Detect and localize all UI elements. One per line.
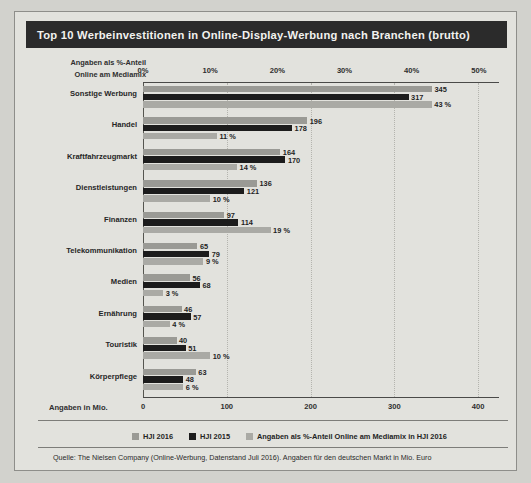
category-label: Touristik xyxy=(105,340,137,349)
bar-value-label: 114 xyxy=(241,218,253,227)
chart-group: Ernährung46574 % xyxy=(143,304,499,335)
bar-spct: 9 % xyxy=(143,258,203,264)
bar-value-label: 10 % xyxy=(213,194,230,203)
bar-value-label: 317 xyxy=(411,92,423,101)
bar-value-label: 3 % xyxy=(166,288,179,297)
bar-row: 178 xyxy=(143,125,499,131)
bar-value-label: 97 xyxy=(227,210,235,219)
legend-label: Angaben als %-Anteil Online am Mediamix … xyxy=(257,432,447,441)
bar-row: 164 xyxy=(143,149,499,155)
bar-value-label: 56 xyxy=(192,273,200,282)
category-label: Körperpflege xyxy=(90,372,137,381)
bottom-value-axis: 0100200300400 xyxy=(143,400,499,416)
bar-value-label: 196 xyxy=(310,116,322,125)
bar-row: 3 % xyxy=(143,290,499,296)
bar-row: 14 % xyxy=(143,164,499,170)
bar-row: 4 % xyxy=(143,321,499,327)
bar-value-label: 14 % xyxy=(240,163,257,172)
legend-item[interactable]: HJI 2016 xyxy=(132,432,173,441)
bar-value-label: 11 % xyxy=(219,131,235,140)
bar-value-label: 345 xyxy=(434,85,446,94)
bottom-axis-tick-label: 300 xyxy=(388,402,401,411)
bar-row: 10 % xyxy=(143,352,499,358)
legend-swatch-icon xyxy=(189,433,196,440)
bar-s2015: 170 xyxy=(143,156,285,162)
category-label: Kraftfahrzeugmarkt xyxy=(67,152,137,161)
bar-value-label: 10 % xyxy=(213,351,230,360)
bar-s2016: 164 xyxy=(143,149,280,155)
bar-s2016: 136 xyxy=(143,180,257,186)
bar-value-label: 4 % xyxy=(172,320,185,329)
bar-row: 65 xyxy=(143,243,499,249)
bar-s2016: 40 xyxy=(143,337,177,343)
bar-value-label: 51 xyxy=(188,343,196,352)
bar-row: 196 xyxy=(143,117,499,123)
screenshot-page: Top 10 Werbeinvestitionen in Online-Disp… xyxy=(0,0,531,483)
top-axis-tick-label: 50% xyxy=(471,66,486,75)
bar-s2015: 178 xyxy=(143,125,292,131)
bar-value-label: 6 % xyxy=(186,382,199,391)
chart-group: Medien56683 % xyxy=(143,272,499,303)
bar-value-label: 121 xyxy=(247,186,259,195)
bar-row: 11 % xyxy=(143,133,499,139)
legend-swatch-icon xyxy=(132,433,139,440)
chart-plot-wrapper: 0%10%20%30%40%50% Sonstige Werbung345317… xyxy=(26,56,507,406)
bar-s2016: 46 xyxy=(143,306,182,312)
top-axis-tick-label: 10% xyxy=(203,66,218,75)
chart-card: Top 10 Werbeinvestitionen in Online-Disp… xyxy=(14,11,517,471)
chart-title-bar: Top 10 Werbeinvestitionen in Online-Disp… xyxy=(26,21,507,48)
bar-s2016: 196 xyxy=(143,117,307,123)
bottom-axis-tick-label: 400 xyxy=(472,402,485,411)
bar-value-label: 63 xyxy=(198,367,206,376)
bar-row: 57 xyxy=(143,313,499,319)
bar-row: 114 xyxy=(143,219,499,225)
chart-group: Körperpflege63486 % xyxy=(143,367,499,398)
chart-legend: HJI 2016HJI 2015Angaben als %-Anteil Onl… xyxy=(132,429,463,443)
top-axis-tick-label: 20% xyxy=(270,66,285,75)
legend-label: HJI 2015 xyxy=(200,432,230,441)
bar-value-label: 65 xyxy=(200,242,208,251)
plot-bottom-rule xyxy=(143,397,499,398)
legend-item[interactable]: HJI 2015 xyxy=(189,432,230,441)
bar-s2016: 65 xyxy=(143,243,197,249)
top-axis-tick-label: 0% xyxy=(138,66,149,75)
bar-s2015: 317 xyxy=(143,94,409,100)
bar-spct: 10 % xyxy=(143,195,210,201)
category-label: Ernährung xyxy=(99,309,137,318)
bar-value-label: 40 xyxy=(179,336,187,345)
chart-group: Finanzen9711419 % xyxy=(143,210,499,241)
bar-s2016: 97 xyxy=(143,212,224,218)
bar-s2015: 48 xyxy=(143,376,183,382)
bar-row: 56 xyxy=(143,274,499,280)
legend-item[interactable]: Angaben als %-Anteil Online am Mediamix … xyxy=(246,432,447,441)
bar-value-label: 68 xyxy=(202,281,210,290)
bar-value-label: 9 % xyxy=(206,257,219,266)
bar-row: 6 % xyxy=(143,384,499,390)
bar-s2015: 114 xyxy=(143,219,238,225)
bar-spct: 14 % xyxy=(143,164,237,170)
bar-spct: 4 % xyxy=(143,321,170,327)
bar-spct: 11 % xyxy=(143,133,217,139)
bar-row: 170 xyxy=(143,156,499,162)
bar-row: 345 xyxy=(143,86,499,92)
category-label: Sonstige Werbung xyxy=(70,89,137,98)
plot-area: Sonstige Werbung34531743 %Handel19617811… xyxy=(143,83,499,397)
category-label: Finanzen xyxy=(104,215,137,224)
bar-value-label: 136 xyxy=(259,179,271,188)
bar-row: 121 xyxy=(143,188,499,194)
bar-row: 51 xyxy=(143,345,499,351)
chart-group: Handel19617811 % xyxy=(143,115,499,146)
bar-spct: 19 % xyxy=(143,227,271,233)
legend-label: HJI 2016 xyxy=(143,432,173,441)
top-axis-tick-label: 30% xyxy=(337,66,352,75)
legend-top-divider xyxy=(38,420,508,421)
category-label: Dienstleistungen xyxy=(76,183,137,192)
chart-group: Touristik405110 % xyxy=(143,335,499,366)
bar-row: 10 % xyxy=(143,195,499,201)
bar-value-label: 178 xyxy=(295,124,307,133)
bar-value-label: 57 xyxy=(193,312,201,321)
bar-s2016: 56 xyxy=(143,274,190,280)
top-axis-tick-label: 40% xyxy=(404,66,419,75)
category-label: Telekommunikation xyxy=(66,246,137,255)
top-percent-axis: 0%10%20%30%40%50% xyxy=(143,66,499,80)
